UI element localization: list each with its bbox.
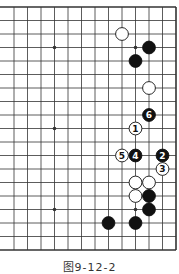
star-point xyxy=(134,208,138,212)
go-board: 615423 xyxy=(0,0,179,256)
move-number: 4 xyxy=(132,151,138,161)
move-number: 5 xyxy=(119,151,125,161)
black-stone xyxy=(102,217,115,230)
star-point xyxy=(134,46,138,50)
black-stone xyxy=(143,41,156,54)
black-stone xyxy=(129,55,142,68)
black-stone xyxy=(143,190,156,203)
star-point xyxy=(53,208,57,212)
black-stone xyxy=(129,217,142,230)
white-stone xyxy=(143,176,156,189)
move-number: 1 xyxy=(132,124,138,134)
move-number: 6 xyxy=(146,110,152,120)
star-point xyxy=(53,127,57,131)
black-stone xyxy=(143,203,156,216)
white-stone xyxy=(129,176,142,189)
star-point xyxy=(53,46,57,50)
white-stone xyxy=(116,28,129,41)
white-stone xyxy=(143,82,156,95)
figure-caption: 图9-12-2 xyxy=(0,258,179,274)
move-number: 2 xyxy=(159,151,165,161)
white-stone xyxy=(129,190,142,203)
move-number: 3 xyxy=(159,164,165,174)
